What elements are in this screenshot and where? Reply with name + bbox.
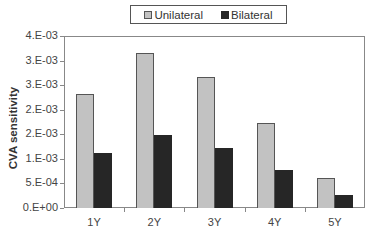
y-tick-label: 0.E+00: [0, 201, 58, 213]
unilateral-swatch-icon: [144, 11, 152, 19]
bar-unilateral-1y: [76, 94, 94, 208]
y-tick-label: 4.E-03: [0, 29, 58, 41]
x-tick-mark: [245, 208, 246, 212]
bar-unilateral-2y: [136, 53, 154, 208]
legend-item-unilateral: Unilateral: [144, 9, 203, 21]
bar-bilateral-3y: [215, 148, 233, 208]
legend: Unilateral Bilateral: [130, 5, 287, 24]
x-tick-label: 1Y: [74, 216, 114, 228]
bar-bilateral-4y: [275, 170, 293, 208]
legend-label-unilateral: Unilateral: [154, 9, 203, 21]
x-tick-mark: [184, 208, 185, 212]
x-tick-label: 3Y: [195, 216, 235, 228]
y-tick-mark: [60, 208, 64, 209]
x-tick-mark: [124, 208, 125, 212]
y-tick-label: 2.E-03: [0, 103, 58, 115]
y-tick-label: 2.E-03: [0, 127, 58, 139]
legend-item-bilateral: Bilateral: [221, 9, 273, 21]
bilateral-swatch-icon: [221, 11, 229, 19]
y-tick-label: 3.E-03: [0, 78, 58, 90]
x-tick-label: 2Y: [134, 216, 174, 228]
x-tick-label: 4Y: [255, 216, 295, 228]
bar-bilateral-5y: [335, 195, 353, 208]
bar-bilateral-2y: [154, 135, 172, 208]
bar-unilateral-5y: [317, 178, 335, 208]
y-tick-label: 3.E-03: [0, 54, 58, 66]
y-tick-label: 1.E-03: [0, 152, 58, 164]
x-tick-mark: [305, 208, 306, 212]
legend-label-bilateral: Bilateral: [231, 9, 273, 21]
bar-bilateral-1y: [94, 153, 112, 208]
bar-unilateral-3y: [197, 77, 215, 208]
x-tick-label: 5Y: [315, 216, 355, 228]
y-tick-label: 5.E-04: [0, 176, 58, 188]
bar-unilateral-4y: [257, 123, 275, 208]
